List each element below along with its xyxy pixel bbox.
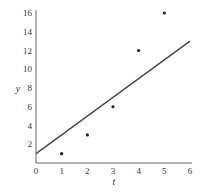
chart: 0123456 246810121416 t y <box>0 0 204 195</box>
y-tick-label: 14 <box>23 27 33 37</box>
data-point <box>86 133 89 136</box>
data-point <box>137 49 140 52</box>
x-tick-label: 2 <box>85 166 90 176</box>
y-axis-label: y <box>15 83 21 94</box>
y-tick-labels: 246810121416 <box>23 8 33 149</box>
fitted-line <box>36 41 190 154</box>
x-tick-label: 6 <box>188 166 193 176</box>
data-point <box>111 105 114 108</box>
x-tick-labels: 0123456 <box>34 166 193 176</box>
x-tick-label: 5 <box>162 166 167 176</box>
series <box>36 11 190 155</box>
y-tick-label: 2 <box>28 139 33 149</box>
x-tick-label: 0 <box>34 166 39 176</box>
data-point <box>163 11 166 14</box>
x-tick-label: 4 <box>136 166 141 176</box>
y-tick-label: 10 <box>23 64 33 74</box>
y-tick-label: 12 <box>23 46 32 56</box>
y-tick-label: 4 <box>28 121 33 131</box>
x-tick-label: 1 <box>59 166 64 176</box>
axes <box>36 10 192 163</box>
x-tick-label: 3 <box>111 166 116 176</box>
x-axis-label: t <box>113 176 116 187</box>
y-tick-label: 16 <box>23 8 33 18</box>
y-tick-label: 6 <box>28 102 33 112</box>
data-point <box>60 152 63 155</box>
y-tick-label: 8 <box>28 83 33 93</box>
